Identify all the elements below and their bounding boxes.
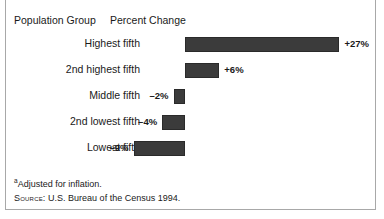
- source-text: U.S. Bureau of the Census 1994.: [48, 193, 180, 203]
- bar-category-label: 2nd highest fifth: [0, 63, 140, 75]
- bar-value-label: –9%: [110, 142, 129, 153]
- bar-negative: [134, 141, 185, 156]
- bar-value-label: +27%: [344, 38, 369, 49]
- heading-population-group: Population Group: [14, 14, 96, 26]
- bar-positive: [185, 63, 219, 78]
- footnote-source: Source: U.S. Bureau of the Census 1994.: [14, 191, 354, 205]
- bar-category-label: 2nd lowest fifth: [0, 115, 140, 127]
- bar-positive: [185, 37, 339, 52]
- bar-row: 2nd highest fifth+6%: [0, 58, 384, 84]
- column-headings: Population Group Percent Change: [0, 14, 384, 30]
- heading-percent-change: Percent Change: [110, 14, 186, 26]
- source-label: Source:: [14, 193, 46, 203]
- bar-row: Lowest fifth–9%: [0, 136, 384, 162]
- bar-row: 2nd lowest fifth–4%: [0, 110, 384, 136]
- footnotes: aAdjusted for inflation. Source: U.S. Bu…: [14, 174, 354, 205]
- bar-value-label: –4%: [138, 116, 157, 127]
- bar-negative: [162, 115, 185, 130]
- bar-category-label: Middle fifth: [0, 89, 140, 101]
- bar-row: Highest fifth+27%: [0, 32, 384, 58]
- bar-value-label: –2%: [150, 90, 169, 101]
- bar-negative: [174, 89, 185, 104]
- bar-row: Middle fifth–2%: [0, 84, 384, 110]
- bar-category-label: Highest fifth: [0, 37, 140, 49]
- bar-chart: Highest fifth+27%2nd highest fifth+6%Mid…: [0, 32, 384, 162]
- footnote-note-text: Adjusted for inflation.: [18, 179, 102, 189]
- bar-value-label: +6%: [224, 64, 243, 75]
- footnote-adjusted: aAdjusted for inflation.: [14, 174, 354, 191]
